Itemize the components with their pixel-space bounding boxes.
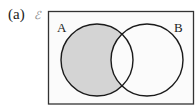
venn-diagram: A B bbox=[0, 0, 196, 106]
set-label-a: A bbox=[57, 20, 67, 35]
set-label-b: B bbox=[174, 20, 183, 35]
